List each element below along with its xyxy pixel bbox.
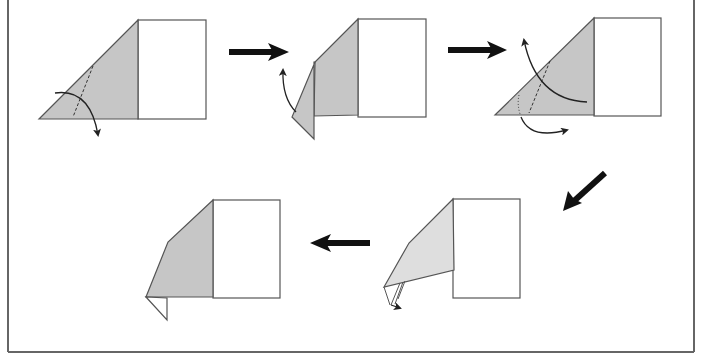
arrow-down-left-icon: [563, 173, 605, 211]
diagram-frame: [0, 0, 707, 357]
arrow-right-icon: [448, 41, 507, 59]
step-5-figure: [146, 200, 280, 320]
small-tuck-arrow-icon: [391, 305, 400, 308]
step-1-figure: [39, 20, 206, 135]
step-3-figure: [495, 18, 661, 133]
step-4-figure: [384, 199, 520, 308]
arrow-right-icon: [229, 43, 289, 61]
fold-back-arrow-icon: [283, 70, 296, 112]
tuck-arrow-icon: [521, 117, 567, 133]
step-2-figure: [283, 19, 426, 139]
arrow-left-icon: [310, 234, 370, 252]
